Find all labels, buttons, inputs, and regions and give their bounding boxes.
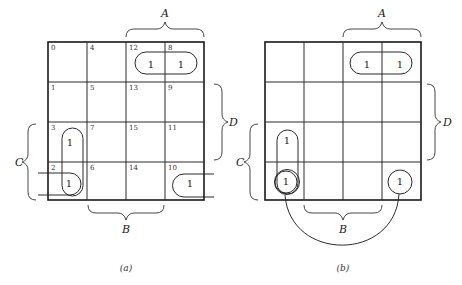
kmap-a: 0 4 12 8 1 5 13 9 3 7 15 11 2 6 14 10 1 … (15, 7, 238, 273)
karnaugh-diagram: 0 4 12 8 1 5 13 9 3 7 15 11 2 6 14 10 1 … (0, 0, 462, 285)
cell-index: 9 (168, 84, 172, 92)
cell-index: 5 (90, 84, 94, 92)
brace-B (304, 205, 382, 220)
brace-D (427, 84, 441, 160)
label-A: A (377, 7, 386, 20)
cell-value-one: 1 (148, 59, 154, 70)
group-loop-wrap-right (173, 174, 215, 197)
label-A: A (160, 7, 169, 20)
cell-value-one: 1 (283, 176, 289, 187)
label-D: D (442, 116, 452, 129)
corner-connector-arc (285, 194, 399, 245)
cell-index: 6 (90, 164, 95, 172)
cell-index: 2 (51, 164, 55, 172)
label-D: D (228, 116, 238, 129)
cell-index: 8 (168, 44, 172, 52)
cell-value-one: 1 (364, 59, 370, 70)
cell-index: 14 (129, 164, 138, 172)
brace-C (22, 124, 36, 200)
cell-index: 1 (51, 84, 55, 92)
cell-value-one: 1 (397, 176, 403, 187)
cell-index: 7 (90, 124, 94, 132)
label-B: B (338, 223, 347, 236)
cell-value-one: 1 (397, 59, 403, 70)
cell-index: 0 (51, 44, 55, 52)
label-B: B (121, 223, 130, 236)
cell-index: 15 (129, 124, 138, 132)
cell-value-one: 1 (178, 59, 184, 70)
brace-B (88, 205, 164, 220)
group-loop-top-pair (135, 52, 197, 74)
label-C: C (15, 156, 24, 169)
cell-value-one: 1 (187, 178, 193, 189)
cell-value-one: 1 (284, 135, 290, 146)
cell-index: 4 (90, 44, 95, 52)
cell-value-one: 1 (66, 178, 72, 189)
brace-C (244, 124, 258, 200)
kmap-b: 1 1 1 1 1 A D C B (b) (236, 7, 452, 273)
brace-D (214, 84, 228, 160)
cell-index: 12 (129, 44, 138, 52)
cell-value-one: 1 (67, 137, 73, 148)
cell-index: 13 (129, 84, 138, 92)
cell-index: 11 (168, 124, 177, 132)
caption-b: (b) (337, 263, 350, 273)
cell-index: 3 (51, 124, 55, 132)
brace-A (343, 22, 421, 37)
caption-a: (a) (120, 263, 133, 273)
brace-A (126, 22, 204, 37)
group-loop-wrap-left (38, 173, 81, 195)
label-C: C (236, 156, 245, 169)
cell-index: 10 (168, 164, 177, 172)
